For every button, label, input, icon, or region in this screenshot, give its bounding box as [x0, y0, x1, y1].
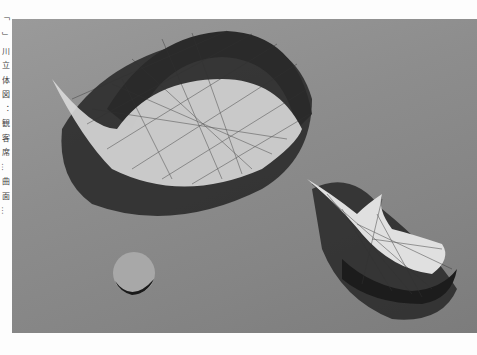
cropped-side-caption: 「 」 川 立 体 図 ： 観 客 席 … 曲 面 … — [1, 12, 11, 217]
model-illustration — [12, 19, 477, 333]
model-photograph — [12, 19, 477, 333]
